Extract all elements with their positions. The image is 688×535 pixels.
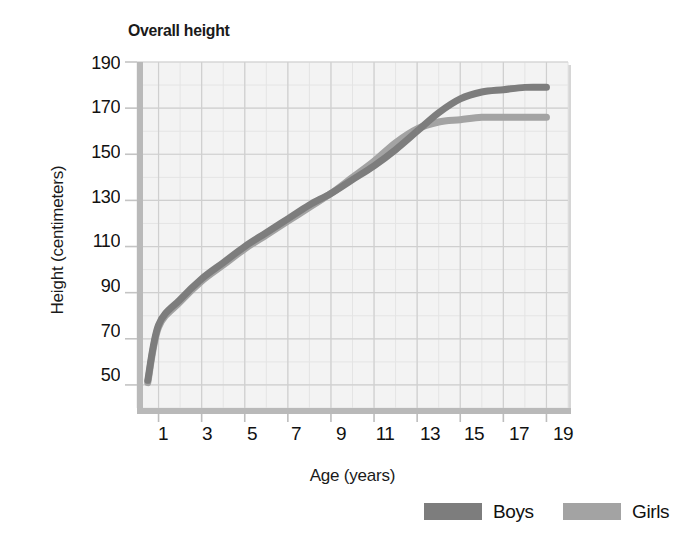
plot-area [0,0,688,535]
chart-figure: Overall height Height (centimeters) Age … [0,0,688,535]
legend-swatch-boys [424,503,482,520]
legend-label-boys: Boys [493,502,534,521]
legend-item-girls[interactable]: Girls [563,502,669,521]
legend-swatch-girls [563,503,621,520]
legend-item-boys[interactable]: Boys [424,502,534,521]
legend-label-girls: Girls [632,502,669,521]
